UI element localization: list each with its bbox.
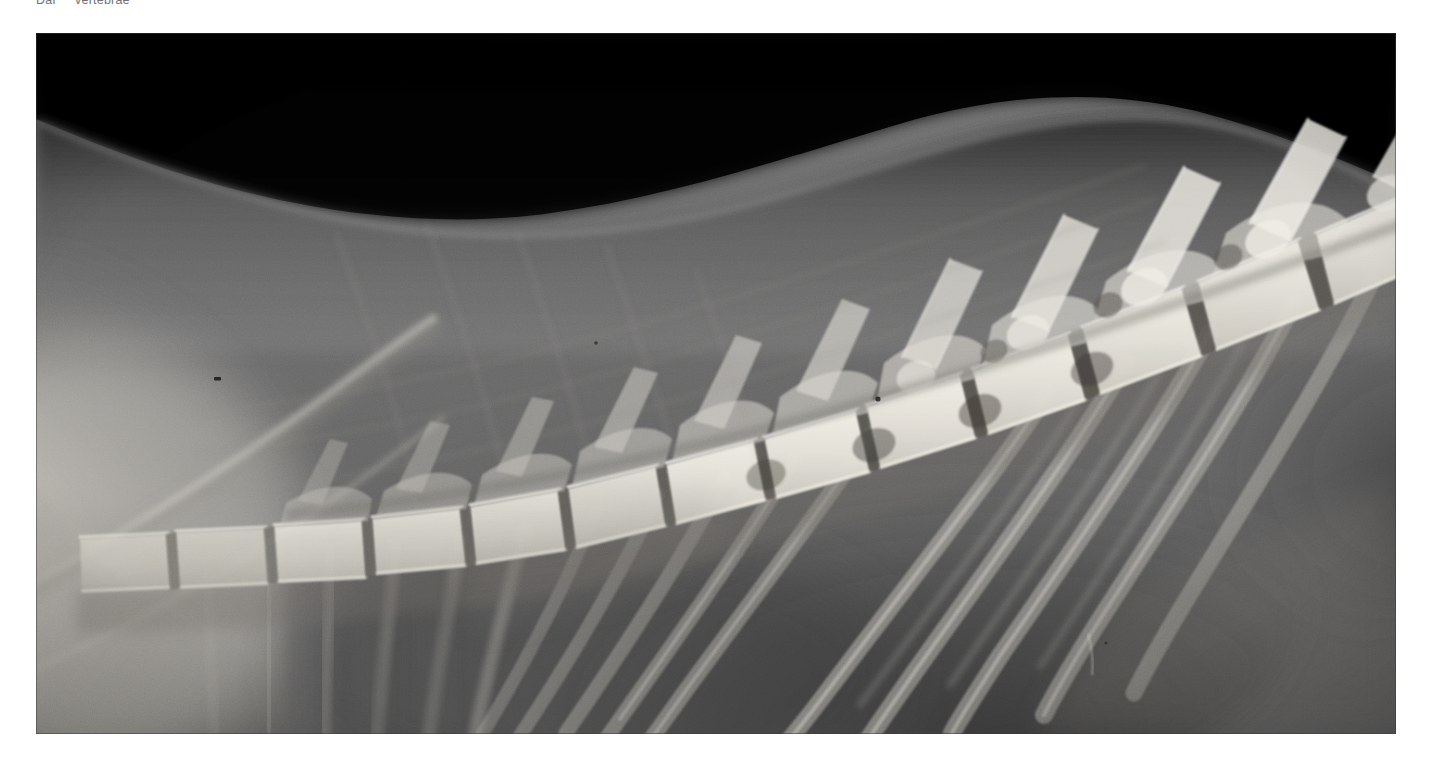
figure-caption: Dar vertebrae [36, 0, 130, 7]
radiograph-image [36, 33, 1396, 734]
radiograph-figure [36, 33, 1396, 734]
